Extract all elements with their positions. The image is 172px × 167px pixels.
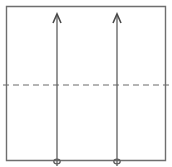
canvas-background xyxy=(0,0,172,167)
diagram-svg xyxy=(0,0,172,167)
figure-canvas xyxy=(0,0,172,167)
